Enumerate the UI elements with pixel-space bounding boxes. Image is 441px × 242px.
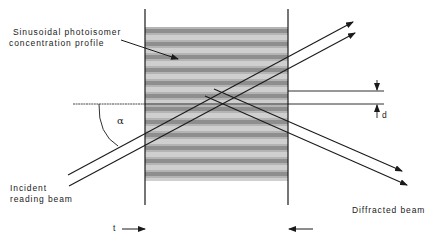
thickness-label: t	[113, 223, 116, 233]
profile-label-line1: Sinusoidal photoisomer	[13, 27, 121, 37]
incident-label-line2: reading beam	[10, 194, 73, 204]
fringe-spacing-label: d	[382, 110, 388, 120]
incident-label-line1: Incident	[10, 183, 47, 193]
alpha-angle-arc	[99, 104, 118, 146]
diffracted-label: Diffracted beam	[352, 205, 425, 215]
alpha-label: α	[117, 116, 124, 126]
profile-label-line2: concentration profile	[9, 38, 104, 48]
hologram-diffraction-diagram: Sinusoidal photoisomer concentration pro…	[0, 0, 441, 242]
